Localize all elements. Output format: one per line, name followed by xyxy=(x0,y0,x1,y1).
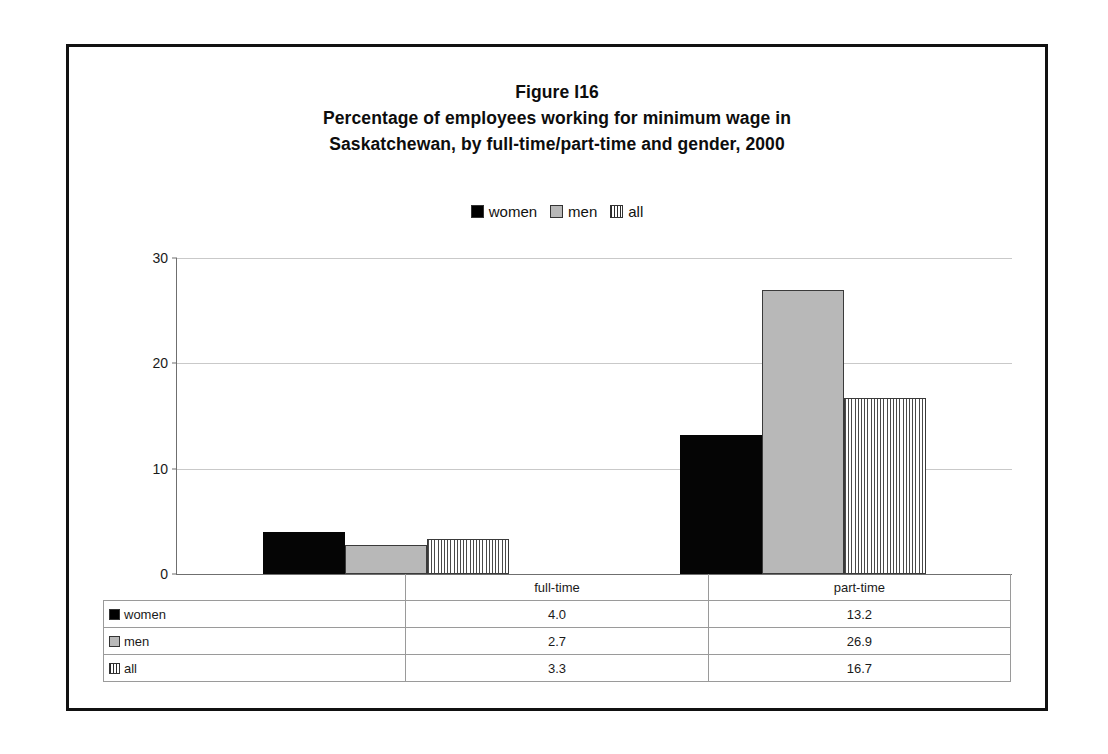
gray-square-icon xyxy=(550,205,563,218)
title-line-3: Saskatchewan, by full-time/part-time and… xyxy=(69,131,1045,157)
striped-square-icon xyxy=(610,205,623,218)
y-tick-label-20: 20 xyxy=(152,355,168,371)
table-cell-all-part-time: 16.7 xyxy=(708,655,1010,682)
figure-title: Figure I16 Percentage of employees worki… xyxy=(69,79,1045,157)
title-line-2: Percentage of employees working for mini… xyxy=(69,105,1045,131)
table-rowlabel-men: men xyxy=(104,628,406,655)
y-tick-label-30: 30 xyxy=(152,250,168,266)
black-square-icon xyxy=(109,609,120,620)
table-corner-cell xyxy=(104,574,406,601)
table-header-part-time: part-time xyxy=(708,574,1010,601)
legend-item-all: all xyxy=(610,203,643,220)
striped-square-icon xyxy=(109,663,120,674)
bar-part-time-all xyxy=(844,398,926,574)
table-rowlabel-text-all: all xyxy=(124,661,137,676)
data-table: full-time part-time women 4.0 13.2 men xyxy=(103,574,1011,682)
table-cell-men-part-time: 26.9 xyxy=(708,628,1010,655)
legend-label-women: women xyxy=(489,203,537,220)
plot-area: 30 20 10 0 xyxy=(176,258,1012,575)
table-cell-all-full-time: 3.3 xyxy=(406,655,708,682)
y-tick-label-10: 10 xyxy=(152,461,168,477)
table-cell-women-full-time: 4.0 xyxy=(406,601,708,628)
gray-square-icon xyxy=(109,636,120,647)
legend-label-men: men xyxy=(568,203,597,220)
table-rowlabel-women: women xyxy=(104,601,406,628)
table-header-full-time: full-time xyxy=(406,574,708,601)
title-line-1: Figure I16 xyxy=(69,79,1045,105)
table-rowlabel-text-men: men xyxy=(124,634,149,649)
bar-full-time-women xyxy=(263,532,345,574)
black-square-icon xyxy=(471,205,484,218)
bar-full-time-all xyxy=(427,539,509,574)
legend-item-women: women xyxy=(471,203,537,220)
bar-group-part-time xyxy=(595,258,1013,574)
bar-full-time-men xyxy=(345,545,427,574)
bar-part-time-women xyxy=(680,435,762,574)
table-cell-men-full-time: 2.7 xyxy=(406,628,708,655)
table-rowlabel-text-women: women xyxy=(124,607,166,622)
figure-frame: Figure I16 Percentage of employees worki… xyxy=(66,44,1048,711)
bar-group-full-time xyxy=(177,258,595,574)
table-row-all: all 3.3 16.7 xyxy=(104,655,1011,682)
table-cell-women-part-time: 13.2 xyxy=(708,601,1010,628)
legend-item-men: men xyxy=(550,203,597,220)
table-rowlabel-all: all xyxy=(104,655,406,682)
legend-label-all: all xyxy=(628,203,643,220)
bar-part-time-men xyxy=(762,290,844,574)
table-header-row: full-time part-time xyxy=(104,574,1011,601)
chart-legend: women men all xyxy=(69,203,1045,220)
table-row-men: men 2.7 26.9 xyxy=(104,628,1011,655)
table-row-women: women 4.0 13.2 xyxy=(104,601,1011,628)
